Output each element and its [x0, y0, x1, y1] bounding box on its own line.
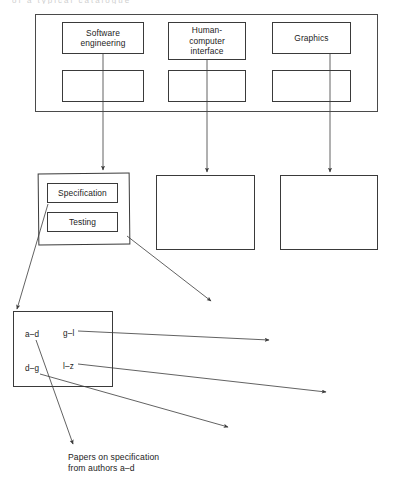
category-box-graphics[interactable]: Graphics — [272, 22, 351, 54]
author-range-a-d[interactable]: a–d — [25, 330, 39, 339]
topic-label-specification: Specification — [58, 188, 107, 198]
author-range-l-z[interactable]: l–z — [63, 362, 74, 371]
category-label-graphics: Graphics — [294, 33, 328, 43]
topic-box-specification[interactable]: Specification — [47, 183, 118, 203]
category-label-human-computer-interface: Human- computer interface — [189, 25, 225, 56]
human-computer-interface-topics-box[interactable] — [156, 175, 255, 250]
topic-box-testing[interactable]: Testing — [47, 212, 118, 232]
catalogue-structure-diagram: of a typical catalogue Software engineer… — [0, 0, 393, 488]
category-box-software-engineering[interactable]: Software engineering — [62, 22, 144, 54]
category-subbox-software-engineering[interactable] — [62, 70, 144, 102]
author-range-g-l[interactable]: g–l — [63, 329, 75, 338]
category-label-software-engineering: Software engineering — [81, 28, 126, 49]
topic-label-testing: Testing — [69, 217, 96, 227]
papers-caption: Papers on specification from authors a–d — [68, 452, 159, 475]
link-lz-to-detail — [78, 364, 326, 392]
category-box-human-computer-interface[interactable]: Human- computer interface — [168, 22, 246, 60]
cropped-heading-fragment: of a typical catalogue — [12, 0, 192, 4]
category-subbox-human-computer-interface[interactable] — [168, 70, 246, 102]
author-range-d-g[interactable]: d–g — [25, 364, 39, 373]
author-index-box[interactable] — [13, 311, 113, 387]
category-subbox-graphics[interactable] — [272, 70, 351, 102]
graphics-topics-box[interactable] — [280, 175, 378, 250]
